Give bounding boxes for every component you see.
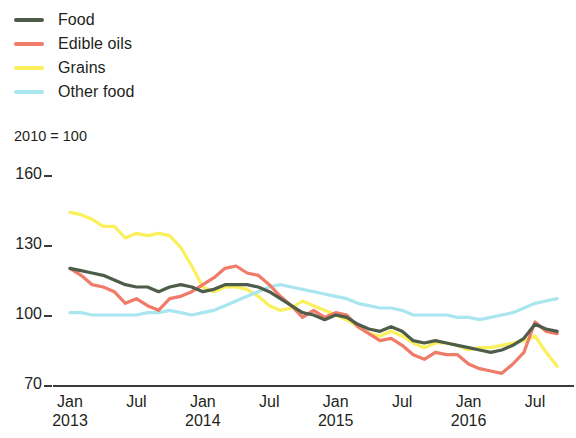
chart-figure: FoodEdible oilsGrainsOther food 2010 = 1… bbox=[0, 0, 576, 438]
series-line bbox=[70, 212, 557, 366]
plot-area bbox=[0, 0, 576, 438]
